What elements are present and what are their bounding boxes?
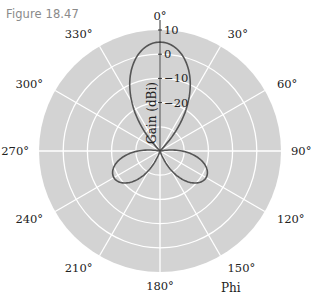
angle-tick-label: 60°: [277, 77, 297, 91]
angle-tick-label: 30°: [228, 27, 248, 41]
angle-tick-label: 330°: [65, 27, 93, 41]
angle-tick-label: 150°: [228, 261, 256, 275]
angle-tick-label: 0°: [153, 9, 166, 23]
angle-tick-label: 240°: [15, 212, 43, 226]
angle-tick-label: 300°: [15, 77, 43, 91]
radial-tick-label: −10: [164, 71, 188, 85]
angle-tick-label: 120°: [277, 212, 305, 226]
radial-tick-label: 10: [164, 23, 179, 37]
radial-axis-title: Gain (dBi): [145, 82, 159, 144]
angle-tick-label: 180°: [146, 279, 174, 293]
angle-tick-label: 90°: [291, 144, 311, 158]
radial-tick-label: 0: [164, 47, 171, 61]
polar-chart: 100−10−20Gain (dBi) 0°30°60°90°120°150°1…: [0, 0, 312, 302]
angle-tick-label: 270°: [1, 144, 29, 158]
angular-axis-title: Phi: [221, 281, 241, 295]
radial-tick-label: −20: [164, 96, 188, 110]
angle-tick-label: 210°: [65, 261, 93, 275]
